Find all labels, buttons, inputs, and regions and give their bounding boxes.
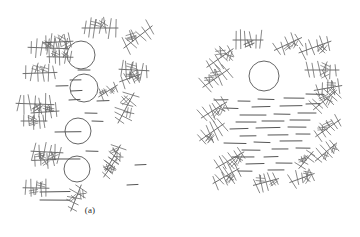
ring-glyph bbox=[249, 61, 279, 91]
dash-glyph bbox=[256, 127, 280, 128]
dendrite-barb bbox=[219, 46, 232, 60]
dendrite-subbranch bbox=[113, 148, 116, 154]
dendrite-subbranch bbox=[33, 188, 34, 195]
dendrite-glyph bbox=[82, 17, 118, 38]
dendrite-barb bbox=[40, 41, 42, 55]
dendrite-glyph bbox=[197, 97, 228, 123]
dendrite-barb bbox=[136, 63, 137, 79]
dendrite-subbranch bbox=[77, 193, 85, 194]
dash-stroke bbox=[69, 99, 80, 100]
dendrite-subbarb bbox=[321, 65, 329, 69]
dendrite-glyph bbox=[122, 20, 153, 55]
dendrite-barb bbox=[306, 43, 308, 55]
dendrite-glyph bbox=[299, 36, 331, 60]
dendrite-barb bbox=[57, 147, 61, 163]
dendrite-subbarb bbox=[271, 181, 278, 186]
dendrite-subbranch bbox=[248, 40, 251, 48]
dendrite-glyph bbox=[311, 140, 339, 162]
dendrite-barb bbox=[115, 117, 124, 123]
dendrite-subbranch bbox=[209, 75, 210, 82]
dendrite-glyph bbox=[28, 38, 68, 57]
dendrite-barb bbox=[215, 175, 224, 184]
dendrite-subbarb bbox=[320, 71, 328, 75]
ring-glyph bbox=[64, 156, 90, 182]
dendrite-barb bbox=[55, 103, 56, 117]
dendrite-shaft bbox=[124, 26, 152, 48]
dendrite-barb bbox=[285, 37, 290, 49]
dendrite-barb bbox=[104, 17, 107, 33]
dendrite-barb bbox=[37, 65, 38, 81]
dendrite-barb bbox=[288, 175, 297, 188]
dash-glyph bbox=[224, 143, 246, 144]
dendrite-glyph bbox=[288, 169, 315, 188]
dendrite-barb bbox=[314, 131, 322, 142]
ring-glyph bbox=[65, 118, 91, 144]
dash-stroke bbox=[127, 184, 138, 185]
dendrite-glyph bbox=[198, 119, 228, 144]
dendrite-glyph bbox=[199, 65, 233, 92]
dendrite-barb bbox=[198, 135, 206, 144]
dendrite-barb bbox=[267, 173, 272, 186]
dendrite-subbarb bbox=[256, 178, 264, 179]
dash-glyph bbox=[69, 99, 80, 100]
panel-a: (a) bbox=[0, 0, 180, 237]
dash-stroke bbox=[230, 128, 248, 129]
dendrite-barb bbox=[39, 117, 40, 129]
dendrite-glyph bbox=[233, 30, 263, 49]
dendrite-glyph bbox=[119, 60, 149, 80]
dendrite-barb bbox=[136, 32, 146, 41]
dendrite-barb bbox=[108, 19, 111, 39]
panel-b: (b) bbox=[180, 0, 360, 237]
dendrite-glyph bbox=[31, 103, 59, 121]
dendrite-glyph bbox=[253, 173, 278, 193]
dendrite-subbarb bbox=[245, 43, 254, 47]
dendrite-glyph bbox=[295, 150, 315, 169]
dendrite-barb bbox=[121, 77, 125, 89]
dendrite-subbranch bbox=[326, 121, 329, 128]
dash-glyph bbox=[252, 106, 270, 107]
dendrite-subbranch bbox=[322, 70, 327, 79]
figure-container: (a) (b) bbox=[0, 0, 360, 237]
dendrite-subbranch bbox=[323, 154, 328, 156]
dendrite-barb bbox=[121, 60, 123, 76]
dash-stroke bbox=[254, 142, 270, 143]
dash-glyph bbox=[254, 142, 270, 143]
dash-glyph bbox=[224, 108, 238, 109]
dendrite-barb bbox=[249, 32, 252, 45]
dendrite-barb bbox=[295, 163, 306, 170]
dendrite-barb bbox=[70, 51, 72, 62]
dendrite-subbranch bbox=[225, 54, 233, 56]
dendrite-subbarb bbox=[117, 153, 118, 161]
dash-stroke bbox=[224, 143, 246, 144]
dendrite-barb bbox=[47, 154, 48, 169]
dash-stroke bbox=[71, 90, 82, 91]
dendrite-subbarb bbox=[29, 116, 37, 120]
dendrite-barb bbox=[260, 30, 262, 48]
dendrite-glyph bbox=[115, 92, 139, 123]
dash-glyph bbox=[127, 184, 138, 185]
dendrite-barb bbox=[28, 115, 29, 125]
dendrite-glyph bbox=[273, 33, 303, 55]
dendrite-glyph bbox=[213, 163, 241, 190]
dendrite-barb bbox=[306, 62, 309, 77]
dash-glyph bbox=[258, 99, 274, 100]
dash-glyph bbox=[71, 90, 82, 91]
dendrite-barb bbox=[84, 21, 86, 34]
dendrite-barb bbox=[48, 64, 49, 81]
dendrite-barb bbox=[123, 92, 139, 97]
dendrite-barb bbox=[300, 48, 306, 60]
dendrite-shaft bbox=[31, 151, 63, 153]
dendrite-subbarb bbox=[322, 74, 330, 78]
dendrite-glyph bbox=[16, 93, 54, 114]
dendrite-subbranch bbox=[322, 126, 323, 132]
dash-stroke bbox=[256, 127, 280, 128]
dash-layer bbox=[40, 70, 146, 200]
dendrite-barb bbox=[53, 38, 55, 56]
dendrite-glyph bbox=[23, 63, 57, 81]
dendrite-barb bbox=[327, 37, 330, 51]
dendrite-barb bbox=[327, 80, 328, 93]
dendrite-barb bbox=[36, 39, 37, 58]
dendrite-barb bbox=[25, 180, 26, 194]
dash-glyph bbox=[230, 128, 248, 129]
dendrite-barb bbox=[254, 180, 260, 193]
